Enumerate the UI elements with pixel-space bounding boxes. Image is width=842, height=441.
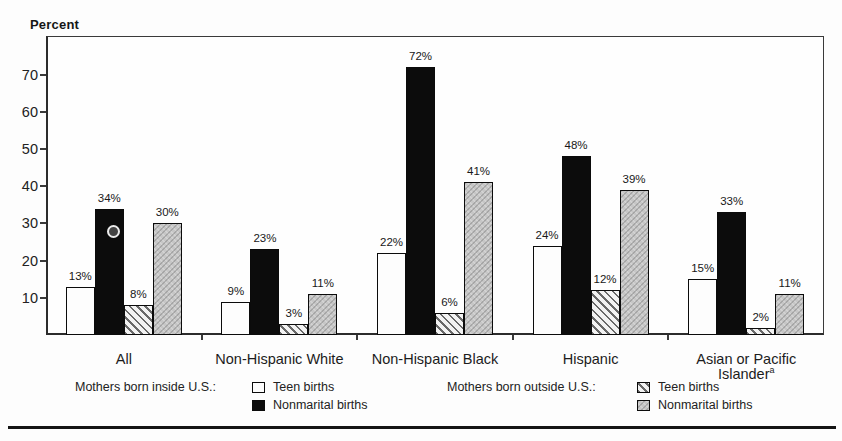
y-axis-tick [40,260,46,262]
legend-inside-title: Mothers born inside U.S.: [75,380,216,394]
y-axis-tick-label: 30 [4,215,38,231]
bar-nonmarital-outside-4 [775,294,804,335]
legend-item-nonmarital-outside: Nonmarital births [637,398,752,412]
scan-artifact-dot [107,225,120,238]
chart-stage: Percent 1020304050607013%34%8%30%All9%23… [0,0,842,441]
nonmarital-births-outside-swatch-icon [637,400,650,411]
bar-teen-outside-2 [435,313,464,335]
bar-teen-outside-0 [124,305,153,335]
category-label-4: Asian or PacificIslandera [656,352,836,382]
y-axis-tick-label: 50 [4,141,38,157]
bar-value-label: 48% [554,139,599,152]
x-axis-tick [356,335,358,340]
legend-item-label: Nonmarital births [658,398,752,412]
bar-value-label: 11% [300,277,345,290]
bar-nonmarital-inside-1 [250,249,279,335]
category-label-1: Non-Hispanic White [189,352,369,367]
bottom-rule [8,426,836,429]
legend-item-teen-outside: Teen births [637,380,752,394]
bar-value-label: 23% [242,232,287,245]
bar-nonmarital-outside-2 [464,182,493,335]
bar-value-label: 30% [145,206,190,219]
y-axis-tick-label: 40 [4,178,38,194]
nonmarital-births-inside-swatch-icon [252,400,265,411]
y-axis-tick [40,297,46,299]
bar-value-label: 33% [709,195,754,208]
category-label-0: All [34,352,214,367]
y-axis-tick [40,111,46,113]
bar-value-label: 11% [767,277,812,290]
legend-item-label: Teen births [273,380,334,394]
y-axis-tick-label: 60 [4,104,38,120]
bar-teen-inside-3 [533,246,562,335]
bar-value-label: 39% [612,173,657,186]
bar-value-label: 34% [87,192,132,205]
bar-teen-inside-1 [221,302,250,335]
y-axis-tick [40,185,46,187]
bar-teen-outside-1 [279,324,308,335]
category-footnote-marker: a [769,365,774,375]
bar-nonmarital-inside-3 [562,156,591,335]
bar-teen-inside-2 [377,253,406,335]
bar-teen-outside-4 [746,328,775,335]
bar-nonmarital-outside-0 [153,223,182,335]
legend-outside-items: Teen births Nonmarital births [637,380,752,412]
legend-item-nonmarital-inside: Nonmarital births [252,398,367,412]
x-axis-tick [667,335,669,340]
y-axis-tick-label: 10 [4,290,38,306]
legend-item-label: Teen births [658,380,719,394]
bar-nonmarital-outside-3 [620,190,649,335]
teen-births-inside-swatch-icon [252,382,265,393]
y-axis-tick [40,222,46,224]
legend-outside-title: Mothers born outside U.S.: [447,380,596,394]
legend-item-teen-inside: Teen births [252,380,367,394]
bar-teen-outside-3 [591,290,620,335]
y-axis-tick [40,74,46,76]
legend-item-label: Nonmarital births [273,398,367,412]
category-label-2: Non-Hispanic Black [345,352,525,367]
bar-value-label: 41% [456,165,501,178]
y-axis-tick-label: 20 [4,253,38,269]
category-label-3: Hispanic [501,352,681,367]
bar-teen-inside-0 [66,287,95,335]
teen-births-outside-swatch-icon [637,382,650,393]
y-axis-tick-label: 70 [4,67,38,83]
bar-teen-inside-4 [688,279,717,335]
y-axis-title: Percent [30,17,79,32]
x-axis-tick [512,335,514,340]
bar-nonmarital-outside-1 [308,294,337,335]
y-axis-tick [40,148,46,150]
x-axis-tick [201,335,203,340]
legend-inside-items: Teen births Nonmarital births [252,380,367,412]
bar-value-label: 72% [398,50,443,63]
